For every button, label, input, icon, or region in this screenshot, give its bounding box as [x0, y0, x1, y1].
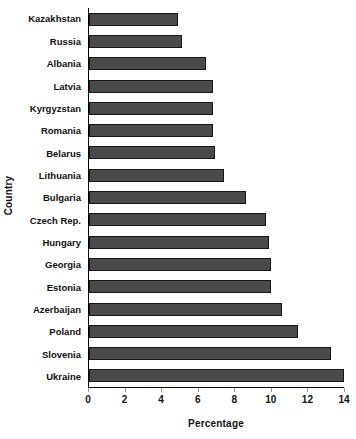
bar-row [89, 231, 344, 253]
category-label: Georgia [16, 254, 85, 276]
bar [89, 102, 213, 115]
x-axis-tick-label: 0 [85, 394, 91, 405]
category-label: Albania [16, 53, 85, 75]
category-label: Estonia [16, 276, 85, 298]
x-axis-tick-label: 10 [265, 394, 276, 405]
x-axis-tick-label: 8 [232, 394, 238, 405]
category-label: Hungary [16, 232, 85, 254]
bar-row [89, 186, 344, 208]
category-label: Latvia [16, 75, 85, 97]
x-axis-tick-label: 12 [302, 394, 313, 405]
category-label: Ukraine [16, 366, 85, 388]
bar [89, 280, 271, 293]
bar [89, 169, 224, 182]
bar [89, 146, 215, 159]
y-axis-title-text: Country [4, 175, 15, 215]
bar [89, 80, 213, 93]
bar-row [89, 276, 344, 298]
x-axis-title: Percentage [88, 418, 344, 429]
bar [89, 369, 344, 382]
x-axis-tick [307, 388, 308, 392]
x-axis-tick-label: 2 [122, 394, 128, 405]
bar [89, 35, 182, 48]
bar [89, 13, 178, 26]
bar [89, 347, 331, 360]
bar-row [89, 30, 344, 52]
bar-row [89, 209, 344, 231]
x-axis-tick [344, 388, 345, 392]
bar [89, 124, 213, 137]
category-label: Azerbaijan [16, 299, 85, 321]
bar [89, 57, 206, 70]
category-label: Slovenia [16, 343, 85, 365]
bar-row [89, 365, 344, 387]
bar-chart: Country KazakhstanRussiaAlbaniaLatviaKyr… [0, 0, 356, 439]
bar [89, 258, 271, 271]
bar [89, 303, 282, 316]
x-axis-tick [271, 388, 272, 392]
bar-row [89, 253, 344, 275]
x-axis-tick [125, 388, 126, 392]
category-label: Kyrgyzstan [16, 97, 85, 119]
x-axis: 02468101214 [88, 388, 344, 414]
bar [89, 191, 246, 204]
category-label: Lithuania [16, 165, 85, 187]
category-label: Poland [16, 321, 85, 343]
bars-layer [89, 8, 344, 387]
category-axis-labels: KazakhstanRussiaAlbaniaLatviaKyrgyzstanR… [16, 8, 85, 388]
bar-row [89, 164, 344, 186]
category-label: Kazakhstan [16, 8, 85, 30]
bar-row [89, 119, 344, 141]
category-label: Bulgaria [16, 187, 85, 209]
bar-row [89, 320, 344, 342]
bar [89, 325, 298, 338]
bar-row [89, 142, 344, 164]
bar [89, 236, 269, 249]
x-axis-tick [88, 388, 89, 392]
bar-row [89, 97, 344, 119]
x-axis-tick-label: 4 [158, 394, 164, 405]
x-axis-tick [198, 388, 199, 392]
plot-area [88, 8, 344, 388]
x-axis-tick-label: 14 [338, 394, 349, 405]
x-axis-tick [161, 388, 162, 392]
bar-row [89, 342, 344, 364]
category-label: Russia [16, 30, 85, 52]
category-label: Belarus [16, 142, 85, 164]
bar [89, 213, 266, 226]
category-label: Czech Rep. [16, 209, 85, 231]
bar-row [89, 298, 344, 320]
x-axis-tick-label: 6 [195, 394, 201, 405]
bar-row [89, 8, 344, 30]
category-label: Romania [16, 120, 85, 142]
bar-row [89, 53, 344, 75]
x-axis-tick [234, 388, 235, 392]
bar-row [89, 75, 344, 97]
